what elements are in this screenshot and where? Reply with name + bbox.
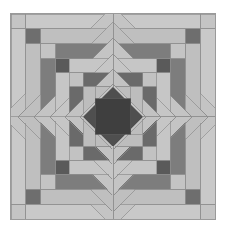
ring-4-corner-ne: [143, 73, 157, 87]
artboard: [0, 0, 226, 233]
ring-4-corner-nw: [69, 73, 83, 87]
ring-1-corner-se: [185, 189, 200, 204]
ring-3-corner-nw: [56, 59, 70, 73]
ring-1-corner-sw: [26, 189, 41, 204]
ring-3-corner-sw: [56, 160, 70, 174]
ring-3-corner-ne: [157, 59, 171, 73]
quilt-pattern-svg: [11, 14, 215, 219]
ring-2-corner-se: [170, 174, 185, 189]
ring-0-corner-se: [200, 204, 215, 219]
ring-1-corner-nw: [26, 29, 41, 44]
center-square: [95, 99, 131, 135]
ring-0-corner-sw: [11, 204, 26, 219]
ring-2-corner-nw: [41, 44, 56, 59]
quilt-block-frame: [10, 13, 216, 220]
ring-1-corner-ne: [185, 29, 200, 44]
ring-0-corner-nw: [11, 14, 26, 29]
ring-4-corner-se: [143, 146, 157, 160]
ring-2-corner-ne: [170, 44, 185, 59]
ring-2-corner-sw: [41, 174, 56, 189]
ring-0-corner-ne: [200, 14, 215, 29]
ring-3-corner-se: [157, 160, 171, 174]
ring-4-corner-sw: [69, 146, 83, 160]
